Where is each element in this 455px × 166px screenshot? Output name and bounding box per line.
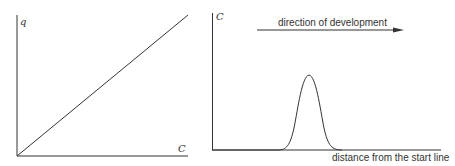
left-linear-line [17,15,188,156]
gaussian-peak [212,75,342,150]
figure: q C C direction of development distance … [0,0,455,166]
direction-arrow-icon [393,28,404,33]
direction-label: direction of development [278,17,387,28]
left-x-label: C [178,143,186,154]
left-y-label: q [20,16,26,27]
right-y-label: C [216,11,224,22]
right-chart: C direction of development distance from… [212,11,450,163]
right-x-label: distance from the start line [332,152,450,163]
left-chart: q C [17,15,188,156]
